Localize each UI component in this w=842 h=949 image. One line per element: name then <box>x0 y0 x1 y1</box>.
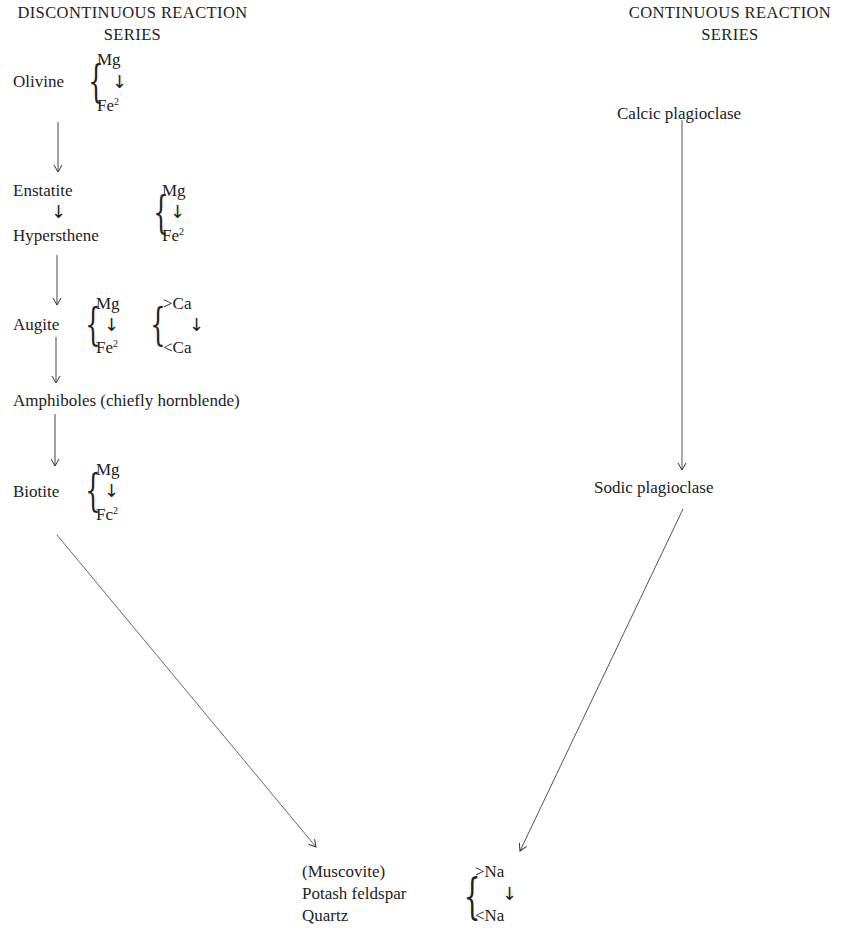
augite-fe-arrow-icon: ↓ <box>104 316 119 334</box>
olivine-fe-label: Fe <box>97 96 114 115</box>
augite-less-ca: <Ca <box>163 338 191 358</box>
final-more-na: >Na <box>475 862 504 882</box>
connector-lines <box>0 0 842 949</box>
augite-fe-superscript: 2 <box>113 338 118 349</box>
augite-ca-arrow-icon: ↓ <box>189 316 204 334</box>
header-continuous: CONTINUOUS REACTION SERIES <box>618 2 842 46</box>
mineral-hypersthene: Hypersthene <box>13 226 99 246</box>
biotite-mg: Mg <box>96 460 120 480</box>
biotite-fc-superscript: 2 <box>113 505 118 516</box>
olivine-arrow-icon: ↓ <box>112 73 127 91</box>
mineral-potash-feldspar: Potash feldspar <box>302 884 406 904</box>
augite-fe2: Fe2 <box>96 338 118 358</box>
olivine-fe-superscript: 2 <box>114 96 119 107</box>
mineral-olivine: Olivine <box>13 72 64 92</box>
enstatite-hypersthene-fe2: Fe2 <box>162 226 184 246</box>
arrow-sodic-to-final <box>520 509 683 851</box>
mineral-sodic-plagioclase: Sodic plagioclase <box>594 478 713 498</box>
header-discontinuous: DISCONTINUOUS REACTION SERIES <box>0 2 265 46</box>
enstatite-hypersthene-fe-label: Fe <box>162 226 179 245</box>
augite-more-ca: >Ca <box>163 294 191 314</box>
header-continuous-line2: SERIES <box>618 24 842 46</box>
final-na-arrow-icon: ↓ <box>502 885 517 903</box>
augite-mg: Mg <box>96 294 120 314</box>
mineral-amphiboles: Amphiboles (chiefly hornblende) <box>13 391 240 411</box>
biotite-arrow-icon: ↓ <box>104 482 119 500</box>
mineral-calcic-plagioclase: Calcic plagioclase <box>617 104 741 124</box>
header-discontinuous-line2: SERIES <box>0 24 265 46</box>
mineral-augite: Augite <box>13 315 59 335</box>
arrow-biotite-to-final <box>57 535 316 847</box>
header-discontinuous-line1: DISCONTINUOUS REACTION <box>0 2 265 24</box>
final-less-na: <Na <box>475 906 504 926</box>
mineral-muscovite: (Muscovite) <box>302 862 385 882</box>
enstatite-hypersthene-arrow-icon: ↓ <box>170 203 185 221</box>
mineral-quartz: Quartz <box>302 906 348 926</box>
olivine-fe2: Fe2 <box>97 96 119 116</box>
enstatite-hypersthene-mg: Mg <box>162 181 186 201</box>
olivine-mg: Mg <box>97 50 121 70</box>
biotite-fc2: Fc2 <box>96 505 118 525</box>
enstatite-arrow-icon: ↓ <box>51 203 66 221</box>
enstatite-hypersthene-fe-superscript: 2 <box>179 226 184 237</box>
mineral-enstatite: Enstatite <box>13 181 72 201</box>
augite-fe-label: Fe <box>96 338 113 357</box>
header-continuous-line1: CONTINUOUS REACTION <box>618 2 842 24</box>
mineral-biotite: Biotite <box>13 482 59 502</box>
biotite-fc-label: Fc <box>96 505 113 524</box>
